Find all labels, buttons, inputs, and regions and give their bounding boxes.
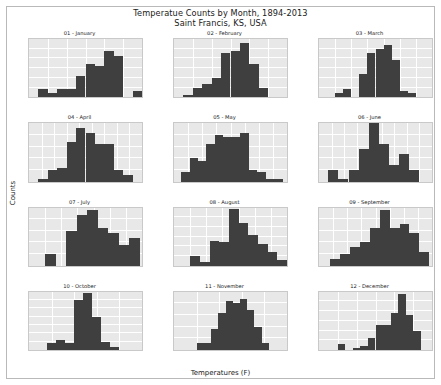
histogram-bar	[400, 224, 410, 266]
y-tick-mark	[173, 236, 174, 237]
histogram-bar	[210, 241, 220, 266]
y-tick-mark	[28, 230, 29, 231]
x-tick-mark	[94, 266, 95, 267]
plot-area-wrapper: 0510152025306668707274767880	[159, 206, 290, 275]
histogram-bar	[206, 144, 214, 181]
histogram-bar	[202, 84, 211, 98]
x-tick-mark	[382, 182, 383, 183]
histogram-bar	[83, 293, 92, 350]
plot-axes: 05101520253010152025303540	[28, 38, 143, 98]
histogram-bar	[343, 89, 351, 97]
x-tick-mark	[86, 97, 87, 98]
subplot-title: 09 - September	[304, 199, 435, 206]
histogram-bars	[29, 39, 142, 97]
x-tick-mark	[419, 182, 420, 183]
plot-axes: 0510152025525456586062646668	[173, 122, 288, 182]
histogram-bar	[92, 317, 101, 350]
x-tick-mark	[400, 97, 401, 98]
plot-area-wrapper: 0510152025525456586062646668	[159, 121, 290, 190]
y-tick-mark	[173, 338, 174, 339]
histogram-bar	[249, 170, 257, 182]
x-tick-mark	[67, 97, 68, 98]
y-tick-mark	[28, 87, 29, 88]
histogram-bar	[226, 301, 233, 350]
x-tick-mark	[367, 97, 368, 98]
x-tick-mark	[174, 350, 175, 351]
x-tick-mark	[197, 350, 198, 351]
x-tick-mark	[29, 350, 30, 351]
histogram-bar	[383, 325, 391, 350]
histogram-bar	[219, 242, 229, 265]
y-tick-mark	[173, 48, 174, 49]
y-tick-mark	[173, 87, 174, 88]
histogram-bars	[29, 123, 142, 181]
x-tick-mark	[390, 266, 391, 267]
plot-area-wrapper: 05101520253035404550556065	[14, 290, 145, 359]
x-tick-mark	[347, 266, 348, 267]
histogram-bars	[319, 208, 432, 266]
x-tick-mark	[255, 266, 256, 267]
subplot-title: 08 - August	[159, 199, 290, 206]
histogram-bar	[330, 259, 340, 266]
subplot-10: 10 - October05101520253035404550556065	[14, 283, 145, 359]
y-tick-mark	[318, 230, 319, 231]
plot-area-wrapper: 051015202560626466687072747678	[304, 121, 435, 190]
y-tick-mark	[318, 87, 319, 88]
x-tick-mark	[142, 182, 143, 183]
y-tick-mark	[28, 291, 29, 292]
histogram-bar	[419, 252, 429, 266]
y-tick-mark	[318, 134, 319, 135]
histogram-bar	[74, 300, 83, 350]
histogram-bar	[254, 327, 261, 350]
histogram-bar	[379, 144, 389, 181]
y-tick-mark	[318, 39, 319, 40]
y-tick-mark	[318, 311, 319, 312]
y-tick-mark	[173, 226, 174, 227]
histogram-bar	[268, 252, 278, 266]
x-tick-mark	[245, 182, 246, 183]
histogram-bar	[133, 91, 142, 97]
x-tick-mark	[418, 266, 419, 267]
subplot-grid: 01 - January0510152025301015202530354002…	[14, 30, 435, 359]
x-tick-mark	[268, 97, 269, 98]
x-tick-mark	[344, 182, 345, 183]
histogram-bar	[399, 154, 409, 182]
y-tick-mark	[173, 158, 174, 159]
y-tick-mark	[28, 123, 29, 124]
x-tick-mark	[142, 266, 143, 267]
histogram-bar	[398, 294, 406, 350]
x-tick-mark	[231, 182, 232, 183]
histogram-bar	[229, 209, 239, 265]
histogram-bar	[240, 299, 247, 350]
y-tick-mark	[173, 77, 174, 78]
plot-axes: 051015202560626466687072747678	[318, 122, 433, 182]
histogram-bar	[349, 170, 359, 182]
histogram-bars	[174, 208, 287, 266]
histogram-bars	[174, 123, 287, 181]
y-tick-mark	[318, 207, 319, 208]
y-tick-mark	[28, 333, 29, 334]
subplot-title: 01 - January	[14, 30, 145, 37]
x-tick-mark	[384, 97, 385, 98]
y-tick-mark	[318, 48, 319, 49]
histogram-bar	[67, 89, 76, 97]
histogram-bar	[380, 210, 390, 266]
subplot-title: 10 - October	[14, 283, 145, 290]
histogram-bar	[360, 242, 370, 265]
subplot-12: 12 - December05101520253010152025303540	[304, 283, 435, 359]
histogram-bar	[108, 233, 118, 266]
x-tick-mark	[212, 97, 213, 98]
y-tick-mark	[28, 77, 29, 78]
histogram-bar	[249, 64, 258, 97]
histogram-bar	[38, 89, 47, 97]
plot-axes: 05101520253010152025303540	[318, 291, 433, 351]
y-tick-mark	[318, 58, 319, 59]
figure-title-line-1: Temperatue Counts by Month, 1894-2013	[0, 8, 441, 18]
subplot-title: 11 - November	[159, 283, 290, 290]
histogram-bar	[77, 215, 87, 266]
histogram-bar	[233, 303, 240, 350]
histogram-bar	[409, 233, 419, 266]
plot-axes: 05101520253015202530354045	[173, 38, 288, 98]
histogram-bar	[413, 331, 421, 350]
y-tick-mark	[173, 169, 174, 170]
